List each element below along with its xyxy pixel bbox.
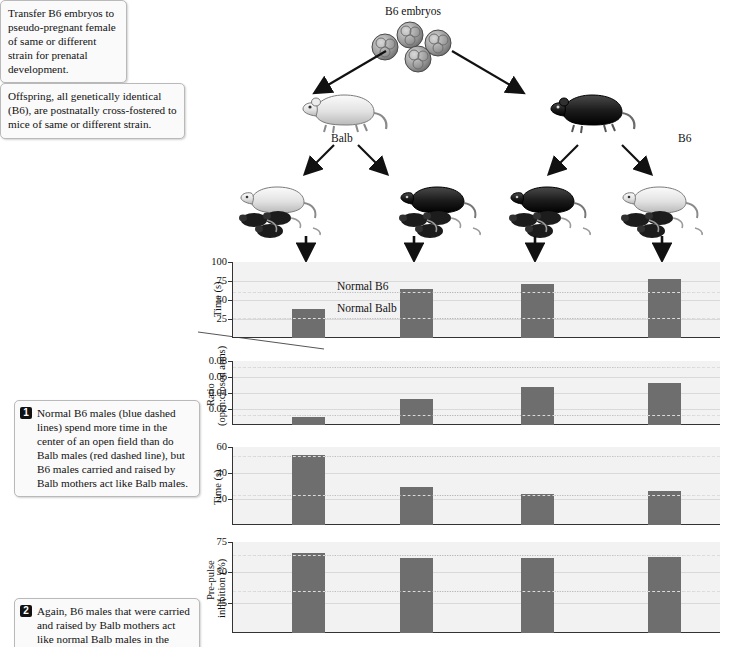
y-axis-tick [228, 393, 233, 394]
bar [292, 417, 325, 425]
y-axis-tick [228, 603, 233, 604]
callout-2-number: 2 [20, 605, 32, 617]
bar [292, 309, 325, 338]
foster-family-group-2 [398, 176, 484, 238]
normal-balb-label: Normal Balb [337, 302, 397, 314]
y-axis-title-panel-4-line2: inhibition (%) [216, 559, 227, 618]
plot-area-panel-3: 204060 [232, 447, 720, 525]
callout-1: 1 Normal B6 males (blue dashed lines) sp… [14, 400, 200, 497]
y-axis-tick [228, 377, 233, 378]
bar [648, 279, 681, 338]
y-axis-tick [228, 262, 233, 263]
offspring-note-text: Offspring, all genetically identical (B6… [8, 90, 177, 132]
chart-panel-3: 204060 [232, 447, 720, 525]
reference-line-highlight [233, 292, 720, 293]
transfer-note-text: Transfer B6 embryos to pseudo-pregnant f… [8, 7, 119, 76]
reference-line-highlight [233, 495, 720, 496]
foster-family-group-3 [508, 176, 594, 238]
reference-line-highlight [233, 555, 720, 556]
y-axis-title-panel-1: Time (s) [212, 282, 223, 318]
reference-line-highlight [233, 367, 720, 368]
plot-area-panel-4: 255075 [232, 542, 720, 633]
bar [648, 491, 681, 525]
offspring-note-box: Offspring, all genetically identical (B6… [0, 83, 185, 139]
y-axis-title-panel-4-line1: Pre-pulse [205, 560, 216, 600]
arrow-balb-to-offspring-2 [352, 142, 398, 182]
callout-2-text: Again, B6 males that were carried and ra… [37, 605, 192, 647]
chart-panel-2: 0.020.040.060.08 [232, 361, 720, 425]
bar [400, 289, 433, 338]
y-axis-tick [228, 542, 233, 543]
parent-mouse-balb [300, 82, 392, 134]
transfer-note-box: Transfer B6 embryos to pseudo-pregnant f… [0, 0, 127, 83]
bar [292, 553, 325, 633]
reference-line-highlight [233, 318, 720, 319]
bar [648, 557, 681, 633]
y-axis-tick [228, 300, 233, 301]
plot-area-panel-1: 255075100 [232, 262, 720, 338]
y-axis-tick [228, 281, 233, 282]
y-axis-title-panel-2-line2: (open:closed arms) [216, 346, 227, 426]
foster-family-group-1 [238, 176, 324, 238]
reference-line-highlight [233, 456, 720, 457]
chart-panel-1: 255075100 [232, 262, 720, 338]
y-axis-tick [228, 572, 233, 573]
y-axis-tick-label: 100 [199, 256, 227, 267]
bar [521, 494, 554, 525]
y-axis-tick-label: 60 [199, 441, 227, 452]
callout-1-number: 1 [20, 407, 32, 419]
y-axis-tick [228, 499, 233, 500]
y-axis-tick-label: 75 [199, 536, 227, 547]
reference-line-highlight [233, 591, 720, 592]
foster-family-group-4 [620, 176, 706, 238]
bar [648, 383, 681, 425]
bar [292, 455, 325, 525]
y-axis-tick [228, 409, 233, 410]
callout-2: 2 Again, B6 males that were carried and … [14, 598, 200, 647]
y-axis-tick [228, 473, 233, 474]
chart-panel-4: 255075 [232, 542, 720, 633]
bar [400, 558, 433, 633]
callout-1-text: Normal B6 males (blue dashed lines) spen… [37, 407, 192, 490]
bar [521, 387, 554, 425]
gridline [233, 377, 720, 378]
plot-area-panel-2: 0.020.040.060.08 [232, 361, 720, 425]
parent-label-b6: B6 [678, 132, 691, 144]
y-axis-title-panel-3: Time (s) [212, 470, 223, 506]
normal-b6-label: Normal B6 [337, 280, 388, 292]
y-axis-tick [228, 447, 233, 448]
arrow-embryos-to-b6 [448, 48, 538, 100]
parent-mouse-b6 [548, 82, 640, 134]
b6-embryos-label: B6 embryos [385, 5, 441, 17]
y-axis-title-panel-2-line1: Ratio [205, 383, 216, 406]
reference-line-highlight [233, 415, 720, 416]
bar [400, 487, 433, 525]
y-axis-tick [228, 361, 233, 362]
bar [521, 558, 554, 633]
bar [400, 399, 433, 425]
